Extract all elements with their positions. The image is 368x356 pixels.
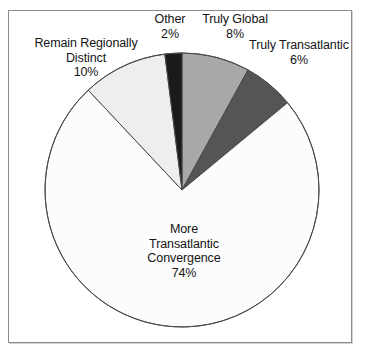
pie-label-more-transatlantic-convergence: More Transatlantic Convergence 74% — [118, 222, 250, 280]
pie-chart-figure: Remain Regionally Distinct 10% Other 2% … — [0, 0, 368, 356]
pie-label-truly-global: Truly Global 8% — [196, 12, 274, 41]
pie-slice-group — [45, 53, 319, 327]
pie-label-other: Other 2% — [144, 12, 196, 41]
pie-label-truly-transatlantic: Truly Transatlantic 6% — [238, 38, 360, 67]
pie-label-remain-regionally-distinct: Remain Regionally Distinct 10% — [16, 36, 156, 80]
